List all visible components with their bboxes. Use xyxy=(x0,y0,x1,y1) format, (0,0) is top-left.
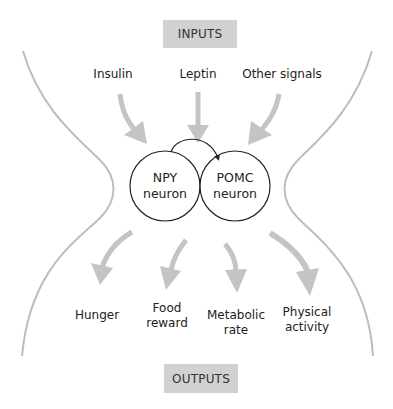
output-arrow-physical-activity xyxy=(270,233,319,296)
output-label-metabolic-rate-line2: rate xyxy=(207,323,265,338)
diagram-canvas xyxy=(0,0,393,409)
output-label-hunger-line1: Hunger xyxy=(75,308,119,323)
output-label-metabolic-rate-line1: Metabolic xyxy=(207,308,265,323)
input-arrow-insulin xyxy=(120,94,147,144)
output-arrow-metabolic-rate xyxy=(225,244,247,293)
inputs-header-box: INPUTS xyxy=(163,20,237,48)
input-arrow-other-signals xyxy=(248,94,279,145)
outputs-header-label: OUTPUTS xyxy=(172,372,230,386)
input-label-insulin: Insulin xyxy=(93,67,132,82)
output-label-food-reward: Food reward xyxy=(146,301,188,331)
output-arrow-hunger xyxy=(91,232,132,285)
npy-neuron-label-line1: NPY xyxy=(143,170,187,186)
output-arrow-food-reward xyxy=(160,240,186,290)
output-label-hunger: Hunger xyxy=(75,308,119,323)
output-label-physical-activity-line2: activity xyxy=(283,320,332,335)
output-label-food-reward-line1: Food xyxy=(146,301,188,316)
inputs-header-label: INPUTS xyxy=(178,27,223,41)
outputs-header-box: OUTPUTS xyxy=(164,364,238,393)
npy-neuron-label-line2: neuron xyxy=(143,186,187,202)
pomc-neuron-label-line2: neuron xyxy=(213,186,257,202)
output-label-physical-activity-line1: Physical xyxy=(283,305,332,320)
input-arrow-leptin xyxy=(187,92,209,143)
output-label-food-reward-line2: reward xyxy=(146,316,188,331)
input-label-leptin: Leptin xyxy=(179,67,216,82)
input-label-other-signals: Other signals xyxy=(242,67,322,82)
output-label-metabolic-rate: Metabolic rate xyxy=(207,308,265,338)
output-label-physical-activity: Physical activity xyxy=(283,305,332,335)
pomc-neuron-label-line1: POMC xyxy=(213,170,257,186)
npy-neuron-label: NPY neuron xyxy=(143,170,187,202)
pomc-neuron-label: POMC neuron xyxy=(213,170,257,202)
